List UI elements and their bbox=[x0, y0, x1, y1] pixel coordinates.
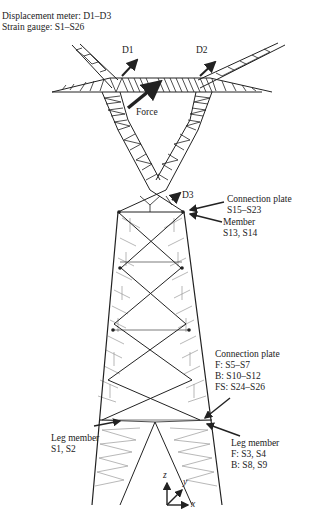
lower-plate-b: B: S10–S12 bbox=[215, 371, 261, 382]
right-leg-member-title: Leg member bbox=[231, 438, 279, 449]
tower-base bbox=[95, 420, 217, 505]
tower-head bbox=[52, 43, 285, 212]
upper-plate-title: Connection plate bbox=[227, 194, 292, 205]
x-axis-label: x bbox=[191, 499, 195, 510]
y-axis-label: y bbox=[183, 477, 187, 488]
z-axis-label: z bbox=[163, 470, 167, 481]
lower-plate-title: Connection plate bbox=[215, 349, 280, 360]
d1-label: D1 bbox=[122, 45, 134, 56]
legend-strain-gauge: Strain gauge: S1–S26 bbox=[2, 22, 84, 33]
right-leg-member-b: B: S8, S9 bbox=[231, 460, 267, 471]
upper-plate-gauges: S15–S23 bbox=[227, 205, 261, 216]
d2-label: D2 bbox=[196, 45, 208, 56]
force-label: Force bbox=[136, 107, 158, 118]
d3-label: D3 bbox=[182, 190, 194, 201]
upper-member-gauges: S13, S14 bbox=[223, 228, 257, 239]
legend-displacement-meter: Displacement meter: D1–D3 bbox=[2, 11, 111, 22]
lower-plate-fs: FS: S24–S26 bbox=[215, 382, 265, 393]
upper-member-title: Member bbox=[223, 217, 255, 228]
right-leg-member-f: F: S3, S4 bbox=[231, 449, 266, 460]
lower-plate-f: F: S5–S7 bbox=[215, 360, 250, 371]
left-leg-member-gauges: S1, S2 bbox=[51, 444, 76, 455]
left-leg-member-title: Leg member bbox=[51, 433, 99, 444]
